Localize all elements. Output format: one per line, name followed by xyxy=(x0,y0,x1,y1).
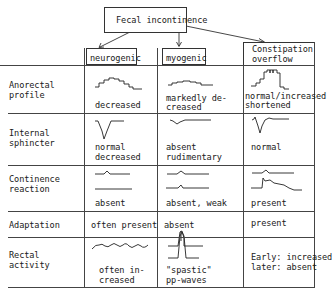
shallow-dip-icon xyxy=(170,120,211,124)
column-label-constipation-line2: overflow xyxy=(252,54,293,64)
column-divider-1 xyxy=(84,48,85,288)
row-divider-3 xyxy=(8,211,315,212)
stepped-plateau-icon xyxy=(95,78,142,89)
row-label-rectal-line1: Rectal xyxy=(9,250,39,260)
low-stepped-plateau-icon xyxy=(168,81,213,85)
arrow-to-neurogenic-icon xyxy=(99,32,130,48)
row-label-adaptation: Adaptation xyxy=(9,220,60,230)
row-divider-2 xyxy=(8,165,315,166)
diagram-title: Fecal incontinence xyxy=(116,15,207,25)
row-label-continence-line1: Continence xyxy=(9,174,60,184)
arrow-to-myogenic-icon xyxy=(177,32,182,47)
column-label-constipation-line1: Constipation xyxy=(252,44,313,54)
cell-continence-neurogenic: absent xyxy=(95,198,125,208)
cell-sphincter-neurogenic-line1: normal xyxy=(95,142,125,152)
cell-sphincter-myogenic-line1: absent xyxy=(166,142,196,152)
table-bottom-border xyxy=(8,287,315,288)
row-label-sphincter-line2: sphincter xyxy=(9,138,55,148)
column-header-myogenic: myogenic xyxy=(162,48,206,65)
wavy-trace-icon xyxy=(92,244,148,250)
row-label-sphincter-line1: Internal xyxy=(9,128,50,138)
weak-bump-trace-icon xyxy=(166,171,209,188)
cell-continence-constipation: present xyxy=(251,198,287,208)
row-label-anorectal-line1: Anorectal xyxy=(9,80,55,90)
cell-rectal-neurogenic-line2: creased xyxy=(99,275,135,285)
cell-continence-myogenic: absent, weak xyxy=(166,198,227,208)
cell-anorectal-constipation-line2: shortened xyxy=(245,100,291,110)
column-divider-2 xyxy=(157,48,158,288)
spike-dip-icon xyxy=(252,117,289,133)
column-header-neurogenic: neurogenic xyxy=(86,48,137,65)
spastic-peak-icon xyxy=(168,231,203,258)
row-label-anorectal-line2: profile xyxy=(9,90,45,100)
cell-sphincter-myogenic-line2: rudimentary xyxy=(166,152,222,162)
high-narrow-plateau-icon xyxy=(251,70,289,89)
cell-anorectal-neurogenic: decreased xyxy=(95,100,141,110)
cell-adaptation-constipation: present xyxy=(251,218,287,228)
arrow-to-constipation-icon xyxy=(186,26,265,43)
cell-rectal-myogenic-line2: pp-waves xyxy=(166,275,207,285)
row-label-continence-line2: reaction xyxy=(9,184,50,194)
cell-rectal-constipation-line2: later: absent xyxy=(251,262,317,272)
row-label-rectal-line2: activity xyxy=(9,260,50,270)
cell-rectal-neurogenic-line1: often in- xyxy=(99,265,145,275)
contraction-trace-icon xyxy=(251,170,302,190)
column-header-constipation: Constipation overflow xyxy=(243,42,315,66)
cell-sphincter-constipation: normal xyxy=(251,142,281,152)
cell-rectal-myogenic-line1: "spastic" xyxy=(166,265,212,275)
cell-sphincter-neurogenic-line2: decreased xyxy=(95,152,141,162)
relaxation-dip-icon xyxy=(95,121,124,139)
title-box: Fecal incontinence xyxy=(104,7,187,33)
column-divider-3 xyxy=(243,66,244,288)
cell-anorectal-myogenic-line2: creased xyxy=(166,102,202,112)
row-divider-4 xyxy=(8,237,315,238)
cell-adaptation-myogenic: absent xyxy=(164,220,194,230)
column-label-neurogenic: neurogenic xyxy=(90,53,141,63)
cell-adaptation-neurogenic: often present xyxy=(91,220,157,230)
flat-trace-icon xyxy=(95,171,132,189)
row-divider-1 xyxy=(8,113,315,114)
column-label-myogenic: myogenic xyxy=(166,53,207,63)
cell-rectal-constipation-line1: Early: increased xyxy=(251,252,332,262)
